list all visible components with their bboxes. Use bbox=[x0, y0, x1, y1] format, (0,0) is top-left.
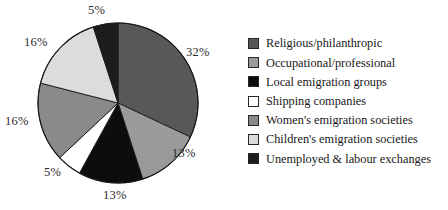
legend-item-label: Women's emigration societies bbox=[266, 114, 413, 126]
pie-chart-figure: 32%13%13%5%16%16%5% Religious/philanthro… bbox=[0, 0, 448, 210]
legend-item-label: Local emigration groups bbox=[266, 76, 387, 88]
legend-item-label: Occupational/professional bbox=[266, 57, 395, 69]
pie-slice-percentage-label: 13% bbox=[172, 147, 196, 160]
legend-item-label: Children's emigration societies bbox=[266, 133, 418, 145]
legend-item[interactable]: Religious/philanthropic bbox=[248, 34, 448, 53]
legend-color-swatch bbox=[248, 115, 259, 126]
legend-item-label: Religious/philanthropic bbox=[266, 37, 382, 49]
legend-item-label: Shipping companies bbox=[266, 95, 366, 107]
pie-slice-percentage-label: 5% bbox=[88, 4, 105, 17]
chart-legend: Religious/philanthropicOccupational/prof… bbox=[248, 34, 448, 168]
legend-item[interactable]: Shipping companies bbox=[248, 92, 448, 111]
legend-item[interactable]: Local emigration groups bbox=[248, 72, 448, 91]
legend-color-swatch bbox=[248, 96, 259, 107]
legend-color-swatch bbox=[248, 38, 259, 49]
pie-chart-area: 32%13%13%5%16%16%5% bbox=[0, 0, 232, 210]
pie-slice-percentage-label: 16% bbox=[5, 115, 29, 128]
legend-item-label: Unemployed & labour exchanges bbox=[266, 153, 431, 165]
legend-color-swatch bbox=[248, 153, 259, 164]
pie-slice-percentage-label: 5% bbox=[44, 166, 61, 179]
legend-item[interactable]: Unemployed & labour exchanges bbox=[248, 149, 448, 168]
legend-item[interactable]: Occupational/professional bbox=[248, 53, 448, 72]
legend-color-swatch bbox=[248, 134, 259, 145]
pie-slice-percentage-label: 16% bbox=[24, 36, 48, 49]
legend-item[interactable]: Children's emigration societies bbox=[248, 130, 448, 149]
pie-chart-svg bbox=[0, 0, 232, 210]
legend-color-swatch bbox=[248, 76, 259, 87]
legend-item[interactable]: Women's emigration societies bbox=[248, 111, 448, 130]
pie-slice-percentage-label: 13% bbox=[103, 189, 127, 202]
legend-color-swatch bbox=[248, 57, 259, 68]
pie-slice-percentage-label: 32% bbox=[186, 46, 210, 59]
